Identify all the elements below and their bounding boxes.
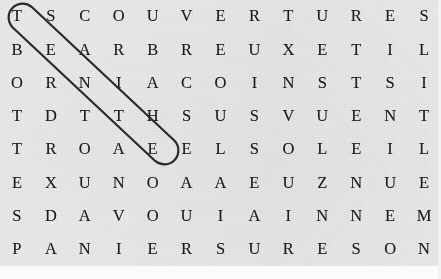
grid-cell[interactable]: I [407, 67, 441, 100]
grid-cell[interactable]: O [102, 0, 136, 33]
grid-cell[interactable]: O [68, 133, 102, 166]
grid-cell[interactable]: A [34, 233, 68, 266]
grid-cell[interactable]: E [373, 200, 407, 233]
grid-cell[interactable]: A [68, 200, 102, 233]
grid-cell[interactable]: E [373, 0, 407, 33]
grid-cell[interactable]: R [34, 67, 68, 100]
grid-cell[interactable]: I [102, 67, 136, 100]
grid-cell[interactable]: E [0, 166, 34, 199]
grid-cell[interactable]: T [407, 100, 441, 133]
grid-cell[interactable]: E [305, 33, 339, 66]
grid-cell[interactable]: U [271, 166, 305, 199]
grid-cell[interactable]: S [407, 0, 441, 33]
grid-cell[interactable]: U [237, 33, 271, 66]
grid-cell[interactable]: I [373, 33, 407, 66]
grid-cell[interactable]: L [204, 133, 238, 166]
grid-cell[interactable]: N [339, 200, 373, 233]
grid-cell[interactable]: B [136, 33, 170, 66]
grid-cell[interactable]: D [34, 200, 68, 233]
grid-cell[interactable]: R [271, 233, 305, 266]
grid-cell[interactable]: T [339, 33, 373, 66]
grid-cell[interactable]: V [271, 100, 305, 133]
grid-cell[interactable]: L [407, 133, 441, 166]
grid-cell[interactable]: S [373, 67, 407, 100]
grid-cell[interactable]: A [102, 133, 136, 166]
grid-cell[interactable]: U [170, 200, 204, 233]
grid-cell[interactable]: S [305, 67, 339, 100]
grid-cell[interactable]: R [170, 33, 204, 66]
grid-cell[interactable]: T [102, 100, 136, 133]
grid-cell[interactable]: O [0, 67, 34, 100]
grid-cell[interactable]: V [170, 0, 204, 33]
grid-cell[interactable]: N [68, 67, 102, 100]
grid-cell[interactable]: I [271, 200, 305, 233]
grid-cell[interactable]: N [102, 166, 136, 199]
grid-cell[interactable]: U [237, 233, 271, 266]
grid-cell[interactable]: R [170, 233, 204, 266]
grid-cell[interactable]: P [0, 233, 34, 266]
grid-cell[interactable]: E [204, 0, 238, 33]
grid-cell[interactable]: O [136, 200, 170, 233]
grid-cell[interactable]: I [102, 233, 136, 266]
grid-cell[interactable]: T [0, 0, 34, 33]
grid-cell[interactable]: R [34, 133, 68, 166]
grid-cell[interactable]: O [271, 133, 305, 166]
grid-cell[interactable]: E [407, 166, 441, 199]
grid-cell[interactable]: A [204, 166, 238, 199]
grid-cell[interactable]: I [237, 67, 271, 100]
grid-cell[interactable]: E [170, 133, 204, 166]
grid-cell[interactable]: H [136, 100, 170, 133]
grid-cell[interactable]: S [339, 233, 373, 266]
grid-cell[interactable]: R [102, 33, 136, 66]
grid-cell[interactable]: O [373, 233, 407, 266]
grid-cell[interactable]: S [237, 100, 271, 133]
grid-cell[interactable]: U [68, 166, 102, 199]
grid-cell[interactable]: Z [305, 166, 339, 199]
grid-cell[interactable]: S [170, 100, 204, 133]
grid-cell[interactable]: E [339, 133, 373, 166]
grid-cell[interactable]: E [237, 166, 271, 199]
grid-cell[interactable]: C [68, 0, 102, 33]
grid-cell[interactable]: N [339, 166, 373, 199]
grid-cell[interactable]: T [0, 100, 34, 133]
grid-cell[interactable]: T [0, 133, 34, 166]
grid-cell[interactable]: A [68, 33, 102, 66]
grid-cell[interactable]: X [271, 33, 305, 66]
grid-cell[interactable]: R [237, 0, 271, 33]
grid-cell[interactable]: R [339, 0, 373, 33]
grid-cell[interactable]: N [407, 233, 441, 266]
grid-cell[interactable]: S [237, 133, 271, 166]
grid-cell[interactable]: E [34, 33, 68, 66]
grid-cell[interactable]: E [204, 33, 238, 66]
grid-cell[interactable]: T [68, 100, 102, 133]
grid-cell[interactable]: I [204, 200, 238, 233]
grid-cell[interactable]: E [136, 233, 170, 266]
grid-cell[interactable]: A [170, 166, 204, 199]
grid-cell[interactable]: N [271, 67, 305, 100]
grid-cell[interactable]: S [0, 200, 34, 233]
grid-cell[interactable]: E [136, 133, 170, 166]
grid-cell[interactable]: T [271, 0, 305, 33]
grid-cell[interactable]: A [136, 67, 170, 100]
grid-cell[interactable]: C [170, 67, 204, 100]
grid-cell[interactable]: U [204, 100, 238, 133]
grid-cell[interactable]: E [305, 233, 339, 266]
grid-cell[interactable]: U [305, 100, 339, 133]
grid-cell[interactable]: M [407, 200, 441, 233]
grid-cell[interactable]: E [339, 100, 373, 133]
grid-cell[interactable]: S [204, 233, 238, 266]
grid-cell[interactable]: A [237, 200, 271, 233]
grid-cell[interactable]: O [204, 67, 238, 100]
grid-cell[interactable]: B [0, 33, 34, 66]
grid-cell[interactable]: D [34, 100, 68, 133]
grid-cell[interactable]: L [305, 133, 339, 166]
grid-cell[interactable]: X [34, 166, 68, 199]
grid-cell[interactable]: N [373, 100, 407, 133]
grid-cell[interactable]: U [136, 0, 170, 33]
grid-cell[interactable]: N [305, 200, 339, 233]
grid-cell[interactable]: L [407, 33, 441, 66]
grid-cell[interactable]: U [305, 0, 339, 33]
grid-cell[interactable]: T [339, 67, 373, 100]
grid-cell[interactable]: N [68, 233, 102, 266]
grid-cell[interactable]: U [373, 166, 407, 199]
